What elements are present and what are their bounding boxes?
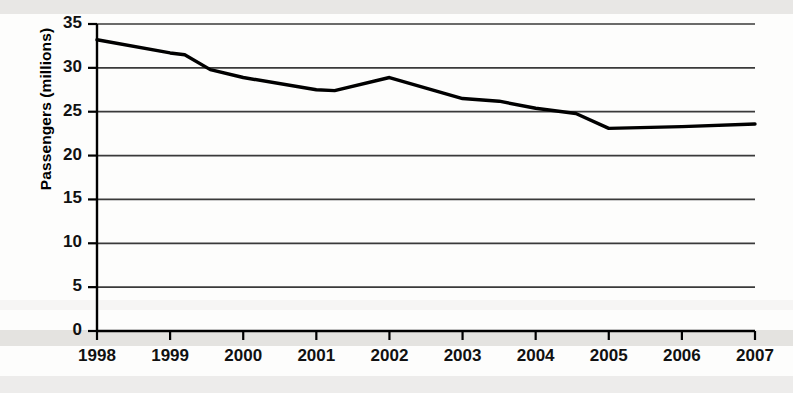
y-tick-label: 30 [40,57,82,77]
y-tick-label: 10 [40,232,82,252]
y-tick-label: 0 [40,320,82,340]
x-tick-label: 1999 [130,346,210,366]
x-tick-label: 2001 [276,346,356,366]
y-tick-label: 5 [40,276,82,296]
y-tick-label: 25 [40,101,82,121]
y-tick-label: 20 [40,145,82,165]
x-tick-label: 2000 [203,346,283,366]
data-series-line [97,40,755,129]
x-tick-label: 2002 [349,346,429,366]
x-tick-label: 2005 [569,346,649,366]
x-tick-group [97,331,755,340]
x-tick-label: 2006 [642,346,722,366]
x-tick-label: 2007 [715,346,793,366]
figure-container: Passengers (millions) 05101520253035 199… [0,0,793,393]
y-tick-label: 35 [40,13,82,33]
y-tick-group [88,24,97,331]
x-tick-label: 2003 [423,346,503,366]
line-chart [0,0,793,393]
x-tick-label: 1998 [57,346,137,366]
y-tick-label: 15 [40,188,82,208]
gridline-group [97,24,755,331]
x-tick-label: 2004 [496,346,576,366]
